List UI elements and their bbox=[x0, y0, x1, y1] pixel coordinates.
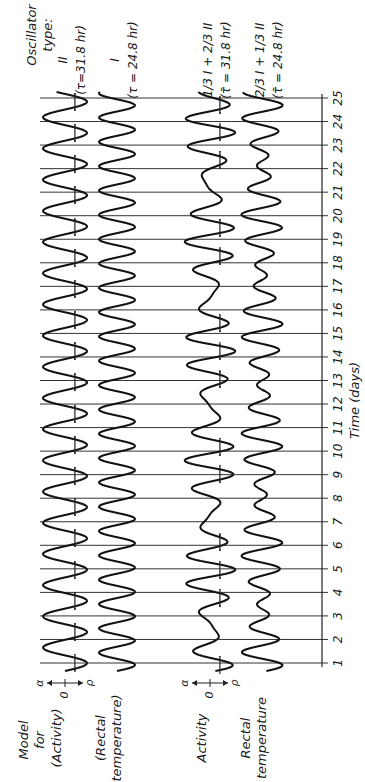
day-tick-label: 16 bbox=[331, 302, 345, 318]
clipped-peak-dotted bbox=[75, 311, 87, 329]
arrow-left-icon bbox=[192, 680, 197, 686]
day-tick-label: 8 bbox=[331, 494, 345, 502]
clipped-peak-dotted bbox=[75, 467, 87, 485]
day-tick-label: 11 bbox=[331, 420, 345, 435]
rectal-temperature-row-label: temperature bbox=[254, 697, 269, 779]
rectal-temperature-oscillator-label: 2/3 I + 1/3 II bbox=[253, 22, 267, 97]
day-tick-label: 21 bbox=[331, 185, 345, 200]
clipped-peak-dotted bbox=[220, 589, 229, 607]
day-tick-label: 5 bbox=[331, 565, 345, 573]
day-tick-label: 13 bbox=[331, 373, 345, 388]
model-for-label: for bbox=[32, 729, 47, 749]
activity-waveform bbox=[185, 92, 236, 671]
waveform-traces bbox=[43, 92, 283, 674]
activity-row-label: Activity bbox=[194, 713, 209, 763]
day-tick-label: 3 bbox=[331, 612, 345, 620]
scale-mark-zero: 0 bbox=[58, 692, 71, 699]
axis-title: Time (days) bbox=[347, 362, 362, 439]
clipped-peak-dotted bbox=[75, 124, 87, 142]
model-rectal-temperature-row-label: temperature) bbox=[109, 694, 124, 781]
day-tick-label: 22 bbox=[331, 161, 345, 176]
model-rectal-temperature-oscillator-label: I bbox=[108, 58, 122, 62]
clipped-peak-dotted bbox=[220, 465, 234, 483]
clipped-peak-dotted bbox=[220, 219, 234, 237]
rectal-temperature-period-label: (τ̄ = 24.8 hr) bbox=[271, 21, 285, 98]
model-activity-oscillator-label: II bbox=[56, 56, 70, 64]
rectal-temperature-waveform bbox=[242, 92, 283, 671]
clipped-peak-dotted bbox=[220, 370, 228, 388]
activity-oscillator-label: 1/3 I + 2/3 II bbox=[201, 22, 215, 97]
model-activity-row-label: (Activity) bbox=[49, 709, 64, 768]
day-tick-label: 20 bbox=[331, 208, 345, 224]
day-tick-label: 10 bbox=[331, 443, 345, 459]
arrow-left-icon bbox=[47, 680, 52, 686]
scale-mark-alpha: α bbox=[33, 679, 46, 687]
scale-mark-rho: ρ bbox=[83, 679, 96, 686]
scale-mark-zero: 0 bbox=[203, 692, 216, 699]
model-rectal-temperature-row-label: (Rectal bbox=[93, 715, 108, 761]
day-tick-label: 25 bbox=[331, 90, 345, 105]
day-tick-label: 14 bbox=[331, 349, 345, 364]
model-activity-waveform bbox=[43, 92, 87, 671]
scale-mark-alpha: α bbox=[178, 679, 191, 687]
clipped-peak-dotted bbox=[220, 438, 233, 456]
model-rectal-temperature-period-label: (τ = 24.8 hr) bbox=[126, 21, 140, 98]
oscillator-type-header: type: bbox=[40, 18, 55, 51]
day-tick-label: 24 bbox=[331, 114, 345, 129]
oscillator-type-header: Oscillator bbox=[24, 3, 39, 66]
clipped-peak-dotted bbox=[220, 314, 229, 332]
model-for-label: Model bbox=[16, 720, 31, 759]
day-tick-label: 17 bbox=[331, 278, 345, 294]
day-tick-label: 12 bbox=[331, 396, 345, 411]
clipped-peak-dotted bbox=[220, 561, 235, 579]
day-tick-label: 2 bbox=[331, 636, 345, 644]
day-tick-label: 4 bbox=[331, 589, 345, 597]
clipped-peak-dotted bbox=[75, 498, 87, 516]
day-tick-label: 18 bbox=[331, 255, 345, 271]
rectal-temperature-row-label: Rectal bbox=[238, 717, 253, 758]
clipped-peak-dotted bbox=[75, 280, 87, 298]
day-tick-label: 19 bbox=[331, 232, 345, 247]
time-axis: 1234567891011121314151617181920212223242… bbox=[322, 90, 362, 667]
day-tick-label: 6 bbox=[331, 541, 345, 549]
day-tick-label: 9 bbox=[331, 471, 345, 479]
clipped-peak-dotted bbox=[220, 123, 235, 141]
activity-period-label: (τ̄ = 31.8 hr) bbox=[219, 21, 233, 98]
clipped-peak-dotted bbox=[75, 155, 87, 173]
clipped-peak-dotted bbox=[75, 592, 87, 610]
rotated-waveform-chart: 1234567891011121314151617181920212223242… bbox=[0, 0, 365, 782]
clipped-peak-dotted bbox=[75, 623, 87, 641]
day-tick-label: 23 bbox=[331, 137, 345, 152]
day-tick-label: 1 bbox=[331, 659, 345, 667]
day-tick-label: 15 bbox=[331, 326, 345, 341]
scale-mark-rho: ρ bbox=[228, 679, 241, 686]
day-tick-label: 7 bbox=[331, 518, 345, 526]
clipped-peak-dotted bbox=[220, 533, 228, 551]
model-activity-period-label: (τ=31.8 hr) bbox=[74, 25, 88, 95]
model-rectal-temperature-waveform bbox=[99, 92, 135, 671]
